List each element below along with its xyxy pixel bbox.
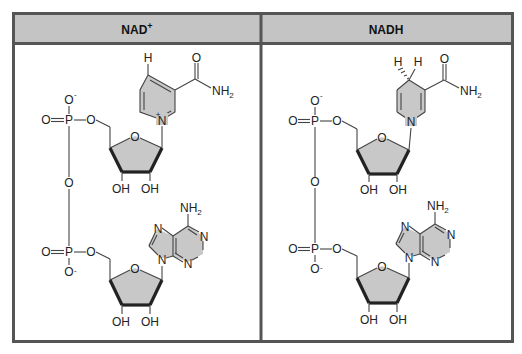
ribose-ring-oxygen: O xyxy=(377,131,386,145)
double-bond-oxygen: O xyxy=(288,114,297,128)
carbonyl-oxygen: O xyxy=(440,52,449,66)
header-nad-plus-label: NAD xyxy=(121,23,147,37)
ester-oxygen: O xyxy=(86,113,95,127)
ring-hydrogen: H xyxy=(144,51,153,65)
phosphorus: P xyxy=(65,113,73,127)
hydroxyl-left: OH xyxy=(112,315,130,329)
anionic-oxygen: O xyxy=(310,262,319,276)
adenine-n9: N xyxy=(405,251,414,265)
negative-charge: - xyxy=(320,91,323,100)
negative-charge: - xyxy=(74,266,77,275)
phosphorus: P xyxy=(311,242,319,256)
bridging-oxygen: O xyxy=(64,176,73,190)
adenine-n3: N xyxy=(184,257,193,271)
header-nad-plus-superscript: + xyxy=(147,21,152,31)
nad-nadh-comparison-figure: NAD+ NADH H O NH2 N + xyxy=(0,0,522,354)
adenine-n9: N xyxy=(158,253,167,267)
table-frame xyxy=(14,14,513,342)
anionic-oxygen: O xyxy=(64,265,73,279)
anionic-oxygen: O xyxy=(310,94,319,108)
header-band xyxy=(15,15,511,43)
hydroxyl-left: OH xyxy=(360,183,378,197)
hydroxyl-right: OH xyxy=(389,313,407,327)
adenine-n7: N xyxy=(154,222,163,236)
ring-hydrogen-2: H xyxy=(414,55,423,69)
double-bond-oxygen: O xyxy=(41,113,50,127)
double-bond-oxygen: O xyxy=(41,245,50,259)
double-bond-oxygen: O xyxy=(288,242,297,256)
phosphorus: P xyxy=(311,114,319,128)
ring-nitrogen: N xyxy=(407,115,416,129)
hydroxyl-left: OH xyxy=(112,182,130,196)
ring-nitrogen-charge: + xyxy=(156,110,161,119)
adenine-n7: N xyxy=(401,220,410,234)
ribose-ring-oxygen: O xyxy=(130,130,139,144)
ester-oxygen: O xyxy=(332,114,341,128)
ester-oxygen: O xyxy=(86,245,95,259)
hydroxyl-left: OH xyxy=(360,313,378,327)
bridging-oxygen: O xyxy=(310,175,319,189)
hydroxyl-right: OH xyxy=(141,315,159,329)
adenine-n1: N xyxy=(447,228,456,242)
carbonyl-oxygen: O xyxy=(192,51,201,65)
header-nadh: NADH xyxy=(369,23,404,37)
ribose-ring-oxygen: O xyxy=(377,260,386,274)
ester-oxygen: O xyxy=(332,242,341,256)
adenine-n3: N xyxy=(431,255,440,269)
hydroxyl-right: OH xyxy=(141,182,159,196)
negative-charge: - xyxy=(74,90,77,99)
ribose-ring-oxygen: O xyxy=(130,262,139,276)
ring-hydrogen-1: H xyxy=(394,55,403,69)
adenine-n1: N xyxy=(200,230,209,244)
anionic-oxygen: O xyxy=(64,93,73,107)
negative-charge: - xyxy=(320,263,323,272)
hydroxyl-right: OH xyxy=(389,183,407,197)
phosphorus: P xyxy=(65,245,73,259)
